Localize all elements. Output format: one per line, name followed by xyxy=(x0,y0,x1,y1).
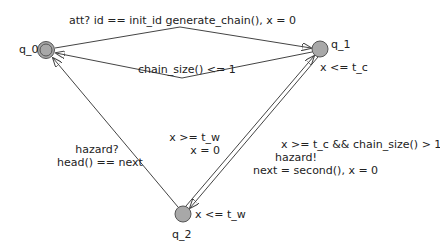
state-q2-label: q_2 xyxy=(172,228,191,241)
state-q1-invariant: x <= t_c xyxy=(320,61,368,74)
state-q0[interactable] xyxy=(38,42,55,59)
state-q2[interactable] xyxy=(175,206,191,222)
edge-q1-q0-label: chain_size() <= 1 xyxy=(138,63,236,76)
edge-q2-q0-guard: head() == next xyxy=(57,156,137,169)
automaton-diagram: q_0 q_1 x <= t_c q_2 x <= t_w att? id ==… xyxy=(0,0,440,250)
edge-q0-q1-label: att? id == init_id generate_chain(), x =… xyxy=(69,14,296,27)
edge-q2-q1-label: x >= t_w x = 0 xyxy=(160,131,220,157)
state-q1-label: q_1 xyxy=(331,38,350,51)
state-q0-label: q_0 xyxy=(19,43,38,56)
edge-q2-q0-sync: hazard? xyxy=(57,143,137,156)
edge-q0-to-q1[interactable] xyxy=(55,27,311,48)
edge-q1-q2-guard: x >= t_c && chain_size() > 1 xyxy=(253,138,440,151)
edge-q1-q2-update: next = second(), x = 0 xyxy=(253,164,440,177)
state-q2-invariant: x <= t_w xyxy=(195,208,246,221)
edge-q2-q1-update: x = 0 xyxy=(160,144,220,157)
edge-q2-q1-guard: x >= t_w xyxy=(160,131,220,144)
edge-q1-q2-label: x >= t_c && chain_size() > 1 hazard! nex… xyxy=(253,138,440,177)
edge-q1-q2-sync: hazard! xyxy=(253,151,440,164)
edge-q2-q0-label: hazard? head() == next xyxy=(57,143,137,169)
state-q1[interactable] xyxy=(312,41,328,57)
